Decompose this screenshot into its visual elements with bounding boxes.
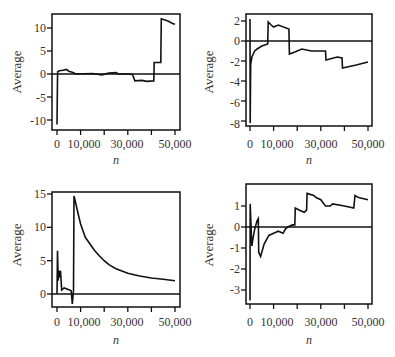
x-tick-label: 50,000	[159, 315, 192, 329]
y-axis-title: Average	[201, 223, 216, 266]
x-tick-label: 0	[247, 137, 253, 151]
y-tick-label: 15	[34, 187, 46, 201]
x-tick-label: 10,000	[261, 137, 294, 151]
y-tick-label: 0	[40, 67, 46, 81]
y-tick-label: 5	[40, 254, 46, 268]
y-axis-title: Average	[9, 223, 24, 266]
y-tick-label: -8	[230, 117, 240, 131]
y-tick-label: 10	[34, 220, 46, 234]
x-tick-label: 50,000	[352, 137, 385, 151]
x-axis-title: n	[113, 333, 119, 347]
x-tick-label: 0	[54, 137, 60, 151]
y-tick-label: -1	[230, 241, 240, 255]
y-tick-label: 0	[40, 287, 46, 301]
y-tick-label: 2	[234, 14, 240, 28]
x-tick-label: 0	[247, 315, 253, 329]
x-tick-label: 50,000	[159, 137, 192, 151]
y-axis-title: Average	[9, 50, 24, 93]
x-axis-title: n	[306, 333, 312, 347]
data-line	[250, 193, 368, 300]
y-tick-label: -10	[30, 114, 46, 128]
x-tick-label: 30,000	[305, 137, 338, 151]
x-tick-label: 30,000	[111, 137, 144, 151]
y-tick-label: -2	[230, 262, 240, 276]
x-tick-label: 30,000	[305, 315, 338, 329]
panel-bottom-left: 0 10,000 30,000 50,000 15 10 5 0 Average…	[9, 187, 192, 347]
y-tick-label: -5	[36, 91, 46, 105]
x-tick-label: 30,000	[111, 315, 144, 329]
x-tick-label: 50,000	[352, 315, 385, 329]
y-tick-label: 10	[34, 21, 46, 35]
data-line	[250, 19, 368, 123]
y-tick-label: -3	[230, 283, 240, 297]
y-tick-label: -4	[230, 75, 240, 89]
data-line	[57, 196, 175, 304]
y-tick-label: 1	[234, 199, 240, 213]
panel-bottom-right: 0 10,000 30,000 50,000 1 0 -1 -2 -3 Aver…	[201, 184, 385, 347]
plot-frame	[246, 14, 372, 126]
y-tick-label: -2	[230, 55, 240, 69]
y-tick-label: -6	[230, 96, 240, 110]
y-tick-label: 0	[234, 220, 240, 234]
panel-top-left: 0 10,000 30,000 50,000 10 5 0 -5 -10 Ave…	[9, 14, 192, 167]
plot-frame	[52, 192, 180, 307]
x-tick-label: 10,000	[68, 315, 101, 329]
y-tick-label: 0	[234, 34, 240, 48]
y-tick-label: 5	[40, 44, 46, 58]
y-axis-title: Average	[201, 50, 216, 93]
x-tick-label: 10,000	[68, 137, 101, 151]
x-tick-label: 0	[54, 315, 60, 329]
x-axis-title: n	[306, 153, 312, 167]
panel-top-right: 0 10,000 30,000 50,000 2 0 -2 -4 -6 -8 A…	[201, 14, 385, 167]
figure-grid: 0 10,000 30,000 50,000 10 5 0 -5 -10 Ave…	[0, 0, 395, 357]
x-tick-label: 10,000	[261, 315, 294, 329]
x-axis-title: n	[113, 153, 119, 167]
data-line	[57, 19, 175, 125]
